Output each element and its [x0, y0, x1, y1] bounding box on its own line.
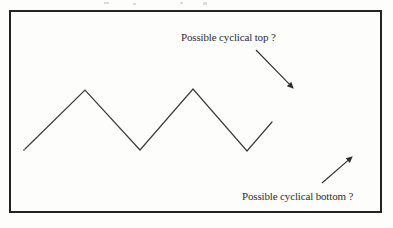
top-annotation-arrow — [256, 50, 291, 86]
series-start-dot — [23, 149, 25, 151]
cyclical-bottom-label: Possible cyclical bottom ? — [242, 190, 353, 202]
cyclical-top-label: Possible cyclical top ? — [181, 31, 276, 43]
cycle-line-series — [25, 89, 272, 151]
figure-canvas: Possible cyclical top ? Possible cyclica… — [0, 0, 393, 228]
bottom-annotation-arrow — [322, 159, 350, 183]
